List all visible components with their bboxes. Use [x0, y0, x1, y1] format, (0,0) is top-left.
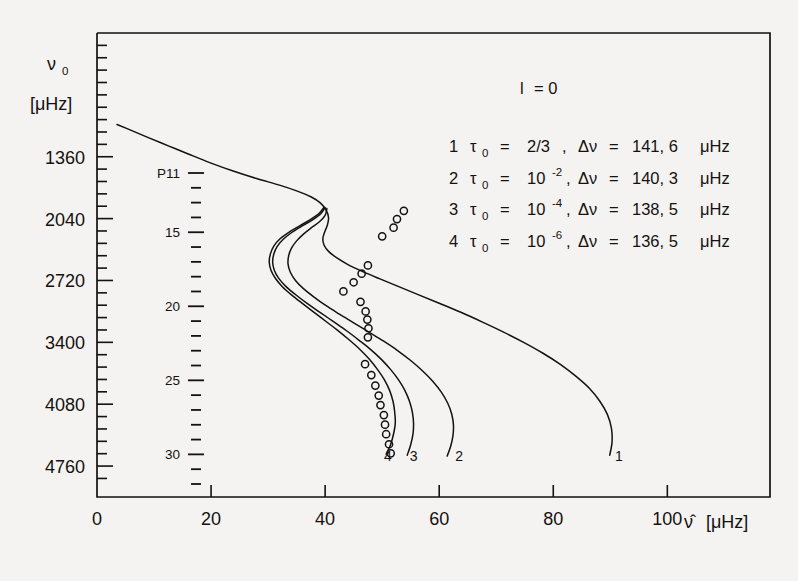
observed-point [368, 371, 375, 378]
plot-frame [97, 33, 770, 497]
legend-row-tau-value: 10 [527, 232, 545, 250]
y-axis-title-subscript: 0 [62, 65, 68, 77]
observed-point [380, 412, 387, 419]
legend-row-tau-value: 10 [527, 169, 545, 187]
y-axis-title-unit: [μHz] [30, 94, 72, 114]
observed-point [390, 224, 397, 231]
legend-row-comma: , [562, 137, 567, 155]
legend-block: l = 0 1τ0=2/3,Δν=141, 6μHz2τ0=10-2,Δν=14… [449, 79, 730, 254]
legend-row-index: 3 [449, 200, 458, 218]
legend-row-tau-value: 2/3 [527, 137, 550, 155]
legend-row-delta-nu-value: 141, 6 [632, 137, 678, 155]
y-axis-ticks [97, 45, 113, 478]
legend-row-unit: μHz [700, 169, 730, 187]
observed-point [362, 308, 369, 315]
legend-row-comma: , [566, 200, 571, 218]
legend-row-delta-nu-value: 136, 5 [632, 232, 678, 250]
x-axis-title-unit: [μHz] [706, 512, 748, 532]
observed-point [365, 325, 372, 332]
model-curve-4 [269, 207, 395, 454]
x-tick-label: 0 [92, 509, 102, 529]
y-tick-label: 2040 [45, 210, 85, 230]
figure-root: 136020402720340040804760 020406080100 ν … [0, 0, 798, 581]
legend-row-equals-1: = [500, 169, 510, 187]
model-curve-2 [288, 209, 454, 456]
y-tick-label: 1360 [45, 148, 85, 168]
inner-scale-label: P11 [157, 166, 180, 181]
x-tick-label: 20 [201, 509, 221, 529]
curve-end-label-2: 2 [455, 448, 463, 464]
x-axis-title: ν̂ [μHz] [684, 512, 748, 532]
legend-row-comma: , [566, 232, 571, 250]
y-axis-tick-labels: 136020402720340040804760 [45, 148, 85, 477]
curve-end-label-1: 1 [615, 448, 623, 464]
legend-row-tau-symbol: τ [470, 200, 477, 218]
observed-point [400, 207, 407, 214]
curve-end-label-3: 3 [410, 448, 418, 464]
legend-row-tau-subscript: 0 [482, 147, 488, 159]
inner-scale-label: 20 [165, 299, 180, 314]
legend-row-delta-nu-value: 140, 3 [632, 169, 678, 187]
inner-order-scale: P1115202530 [157, 166, 204, 484]
observed-point [364, 334, 371, 341]
legend-row-tau-symbol: τ [470, 137, 477, 155]
legend-row-equals-2: = [609, 169, 619, 187]
legend-row-equals-2: = [609, 232, 619, 250]
x-tick-label: 80 [543, 509, 563, 529]
x-tick-label: 100 [652, 509, 682, 529]
legend-row-tau-exponent: -6 [552, 229, 562, 241]
observed-point [377, 402, 384, 409]
legend-row-delta-nu-value: 138, 5 [632, 200, 678, 218]
legend-row-equals-2: = [609, 200, 619, 218]
legend-row-tau-subscript: 0 [482, 210, 488, 222]
observed-point [350, 279, 357, 286]
legend-header-eq: = 0 [534, 79, 557, 97]
legend-row-unit: μHz [700, 200, 730, 218]
legend-row-tau-subscript: 0 [482, 179, 488, 191]
legend-row-index: 2 [449, 169, 458, 187]
legend-row-tau-subscript: 0 [482, 242, 488, 254]
legend-row-tau-value: 10 [527, 200, 545, 218]
inner-scale-label: 30 [165, 447, 180, 462]
observed-point [393, 215, 400, 222]
observed-point [372, 382, 379, 389]
legend-row-index: 4 [449, 232, 458, 250]
observed-point [381, 421, 388, 428]
legend-row-delta-nu-symbol: Δν [578, 169, 597, 187]
legend-row-tau-exponent: -2 [552, 166, 562, 178]
x-tick-label: 40 [315, 509, 335, 529]
y-tick-label: 4760 [45, 457, 85, 477]
legend-rows: 1τ0=2/3,Δν=141, 6μHz2τ0=10-2,Δν=140, 3μH… [449, 137, 730, 254]
inner-scale-label: 25 [165, 373, 180, 388]
observed-points [340, 207, 408, 457]
y-tick-label: 2720 [45, 271, 85, 291]
y-tick-label: 4080 [45, 395, 85, 415]
y-axis-title-symbol: ν [47, 54, 56, 74]
legend-row-tau-exponent: -4 [552, 197, 563, 209]
legend-row-tau-symbol: τ [470, 169, 477, 187]
legend-row-equals-1: = [500, 232, 510, 250]
observed-point [383, 431, 390, 438]
legend-row-tau-symbol: τ [470, 232, 477, 250]
legend-row-delta-nu-symbol: Δν [578, 200, 597, 218]
observed-point [357, 298, 364, 305]
observed-point [364, 316, 371, 323]
observed-point [375, 392, 382, 399]
legend-row-delta-nu-symbol: Δν [578, 232, 597, 250]
x-axis-ticks [211, 485, 667, 497]
legend-row-equals-1: = [500, 137, 510, 155]
legend-row-unit: μHz [700, 137, 730, 155]
legend-row-delta-nu-symbol: Δν [578, 137, 597, 155]
chart-svg: 136020402720340040804760 020406080100 ν … [0, 0, 798, 581]
legend-row-comma: , [566, 169, 571, 187]
observed-point [379, 233, 386, 240]
legend-row-equals-2: = [609, 137, 619, 155]
curve-end-labels: 4321 [384, 448, 623, 464]
legend-row-equals-1: = [500, 200, 510, 218]
observed-point [364, 262, 371, 269]
x-axis-title-symbol: ν̂ [684, 512, 696, 532]
observed-point [340, 288, 347, 295]
y-axis-title: ν 0 [μHz] [30, 54, 72, 114]
inner-scale-label: 15 [165, 225, 180, 240]
legend-row-unit: μHz [700, 232, 730, 250]
